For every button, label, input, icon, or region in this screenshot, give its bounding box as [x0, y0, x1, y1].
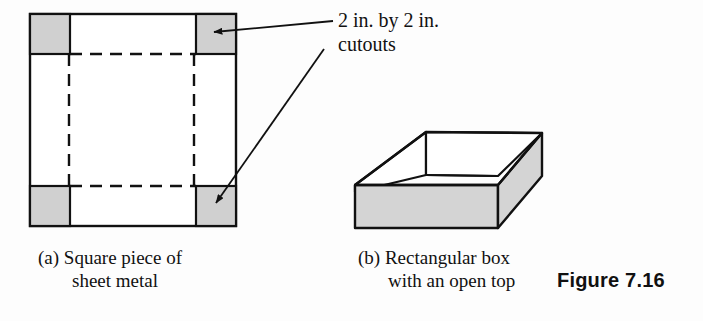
cutout-square-bottom-left: [30, 186, 70, 226]
box-front-face: [355, 185, 498, 228]
panel-b-open-top-box: [355, 132, 542, 228]
cutout-square-bottom-right: [196, 186, 236, 226]
figure-drawing-canvas: [0, 0, 703, 321]
cutout-square-top-left: [30, 14, 70, 54]
figure-container: 2 in. by 2 in. cutouts (a) Square piece …: [0, 0, 703, 321]
cutout-square-top-right: [196, 14, 236, 54]
box-inner-floor-edge: [426, 175, 498, 176]
panel-a-square-sheet: [30, 14, 236, 226]
